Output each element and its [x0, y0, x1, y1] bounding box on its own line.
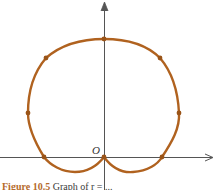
point-lower-right: [160, 155, 165, 160]
point-left: [26, 111, 31, 116]
polar-curve: [28, 39, 179, 172]
origin-label: O: [92, 144, 100, 156]
y-axis-arrow-icon: [101, 2, 108, 11]
point-upper-left: [44, 56, 49, 61]
polar-graph: O: [0, 0, 219, 190]
point-origin: [102, 155, 107, 160]
figure-caption: Figure 10.5 Graph of r = ...: [2, 181, 112, 190]
point-top: [102, 37, 107, 42]
caption-prefix: Figure 10.5: [2, 181, 50, 190]
caption-text: Graph of r = ...: [53, 181, 113, 190]
point-lower-left: [42, 155, 47, 160]
point-upper-right: [158, 56, 163, 61]
point-right: [177, 111, 182, 116]
